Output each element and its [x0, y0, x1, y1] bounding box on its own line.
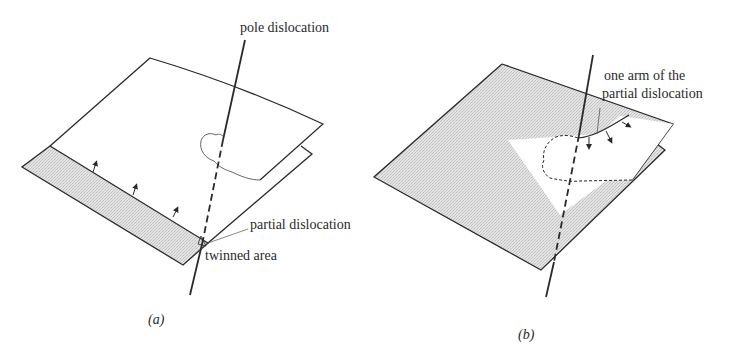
caption-a: (a)	[148, 312, 164, 328]
upper-plane-a	[50, 58, 323, 180]
caption-b: (b)	[518, 327, 534, 343]
dislocation-loop-a	[201, 134, 260, 180]
label-one-arm-line1: one arm of the	[604, 68, 685, 84]
label-partial-dislocation-a: partial dislocation	[250, 217, 351, 233]
label-twinned-area: twinned area	[205, 248, 277, 264]
diagram-canvas	[0, 0, 744, 360]
label-pole-dislocation: pole dislocation	[240, 20, 329, 36]
twinning-dislocation-figure: pole dislocation partial dislocation twi…	[0, 0, 744, 360]
twinned-strip-a	[22, 146, 208, 265]
label-one-arm-line2: partial dislocation	[602, 86, 703, 102]
panel-a	[22, 40, 323, 295]
leader-line-a	[208, 229, 248, 243]
